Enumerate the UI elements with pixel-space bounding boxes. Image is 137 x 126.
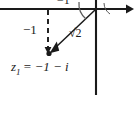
point-marker-z1 [46,51,51,56]
real-axis-tick-label: −1 [23,23,37,36]
top-clipped-label: −1 [57,0,70,6]
horizontal-axis-arrowhead [126,5,134,14]
angle-arc [79,2,86,19]
complex-plane-figure: −1 −1 √2 z1 = −1 − i [0,0,137,126]
point-label-value: −1 − i [34,59,68,74]
modulus-label: √2 [69,27,82,39]
point-equation-label: z1 = −1 − i [11,60,69,77]
